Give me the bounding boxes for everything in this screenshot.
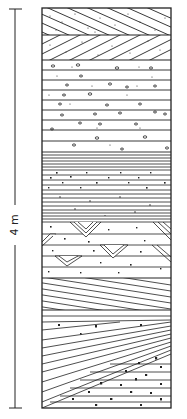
layer-sand-with-grains xyxy=(42,175,171,190)
stratigraphic-column-figure xyxy=(0,0,187,419)
scale-bar xyxy=(9,9,22,408)
layer-laminated-sandstone-with-pebbles xyxy=(42,70,171,152)
layer-cross-bedded-sandstone-dipping-right xyxy=(0,0,187,40)
layer-fine-laminated-silt-2 xyxy=(42,194,171,222)
layer-fine-laminated-silt xyxy=(42,155,171,170)
layer-sandstone-with-trough-cross-bedding xyxy=(42,222,171,273)
layer-wedge-cross-bedded-conglomeratic-sandstone xyxy=(42,316,171,408)
scale-bar-label: 4 m xyxy=(4,214,26,236)
